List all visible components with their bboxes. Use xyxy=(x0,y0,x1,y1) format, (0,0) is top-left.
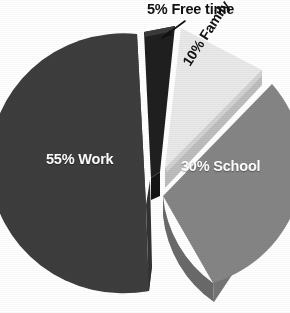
pie-chart-canvas xyxy=(0,0,290,313)
pie-slice-work xyxy=(0,33,152,293)
pie-slice-work-face xyxy=(0,33,149,293)
pie-chart: 55% Work 30% School 10% Family 5% Free t… xyxy=(0,0,290,313)
